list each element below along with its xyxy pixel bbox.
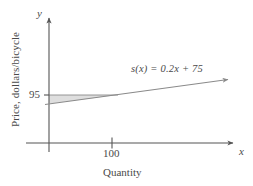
y-tick-label-95: 95: [29, 89, 40, 100]
supply-line: [45, 80, 228, 105]
x-tick-label-100: 100: [103, 148, 120, 159]
y-axis-name: y: [37, 8, 42, 19]
supply-curve-figure: Price, dollars/bicycle Quantity y x 95 1…: [0, 0, 253, 186]
supply-equation-label: s(x) = 0.2x + 75: [131, 64, 203, 75]
x-axis-name: x: [239, 146, 244, 157]
x-axis-title: Quantity: [103, 167, 142, 178]
y-axis-title: Price, dollars/bicycle: [10, 20, 21, 140]
